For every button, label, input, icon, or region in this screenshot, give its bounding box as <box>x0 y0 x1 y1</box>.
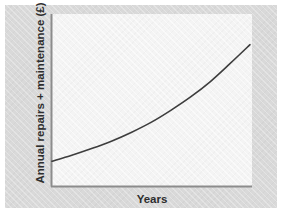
chart-figure: Annual repairs + maintenance (£) Years <box>0 0 284 213</box>
y-axis-label: Annual repairs + maintenance (£) <box>32 0 48 188</box>
x-axis-label: Years <box>52 191 252 207</box>
data-curve-line <box>52 45 250 162</box>
